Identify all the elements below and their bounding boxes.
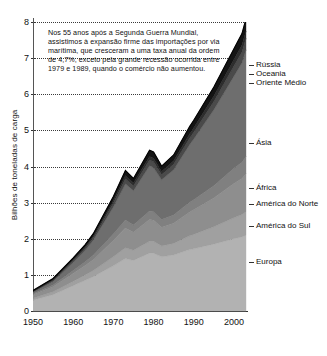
stacked-area-chart: Bilhões de toneladas de carga 012345678 …: [0, 0, 327, 356]
x-tick-label: 1980: [134, 317, 174, 327]
label-leader-line: [249, 83, 254, 84]
y-tick-label: 3: [13, 199, 29, 207]
label-leader-line: [249, 74, 254, 75]
label-leader-line: [249, 65, 254, 66]
label-leader-line: [249, 226, 254, 227]
series-label--frica: África: [256, 183, 276, 192]
x-tick-label: 1990: [174, 317, 214, 327]
x-tick-label: 2000: [214, 317, 254, 327]
series-label-r-ssia: Rússia: [256, 60, 280, 69]
y-tick-label: 7: [13, 54, 29, 62]
y-tick-label: 0: [13, 307, 29, 315]
label-leader-line: [249, 262, 254, 263]
y-tick-label: 8: [13, 18, 29, 26]
series-label-oriente-m-dio: Oriente Médio: [256, 78, 306, 87]
y-tick-label: 4: [13, 163, 29, 171]
x-tick-label: 1950: [13, 317, 53, 327]
label-leader-line: [249, 188, 254, 189]
series-label--sia: Ásia: [256, 138, 272, 147]
y-tick-label: 6: [13, 90, 29, 98]
label-leader-line: [249, 204, 254, 205]
y-tick-label: 5: [13, 126, 29, 134]
series-label-am-rica-do-sul: América do Sul: [256, 221, 310, 230]
y-tick-label: 1: [13, 271, 29, 279]
series-label-am-rica-do-norte: América do Norte: [256, 199, 318, 208]
series-label-oceania: Oceania: [256, 69, 286, 78]
x-tick-label: 1970: [93, 317, 133, 327]
label-leader-line: [249, 143, 254, 144]
x-tick-label: 1960: [53, 317, 93, 327]
y-tick-label: 2: [13, 235, 29, 243]
series-label-europa: Europa: [256, 257, 282, 266]
chart-annotation: Nos 55 anos após a Segunda Guerra Mundia…: [48, 28, 223, 73]
